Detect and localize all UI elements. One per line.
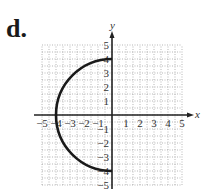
y-tick-label: 1 bbox=[104, 95, 110, 107]
y-tick-label: −3 bbox=[97, 151, 109, 163]
y-tick-label: 5 bbox=[104, 39, 110, 51]
axes bbox=[34, 31, 194, 189]
x-tick-label: 1 bbox=[123, 117, 129, 129]
y-axis-label: y bbox=[109, 19, 115, 31]
x-tick-label: −2 bbox=[78, 117, 90, 129]
x-tick-label: 4 bbox=[165, 117, 171, 129]
y-arrow-icon bbox=[110, 31, 115, 38]
y-tick-label: 2 bbox=[104, 81, 110, 93]
y-tick-label: −2 bbox=[97, 137, 109, 149]
x-arrow-icon bbox=[187, 113, 194, 118]
x-tick-label: −5 bbox=[36, 117, 48, 129]
y-tick-label: −5 bbox=[97, 179, 109, 191]
y-tick-label: −1 bbox=[97, 123, 109, 135]
x-tick-label: −3 bbox=[64, 117, 76, 129]
x-axis-label: x bbox=[194, 108, 200, 120]
x-tick-label: 5 bbox=[179, 117, 185, 129]
graph: xy−5−4−3−2−11234554321−1−2−3−4−5 bbox=[0, 0, 204, 194]
y-tick-label: 3 bbox=[104, 67, 110, 79]
x-tick-label: 2 bbox=[137, 117, 143, 129]
x-tick-label: 3 bbox=[151, 117, 157, 129]
